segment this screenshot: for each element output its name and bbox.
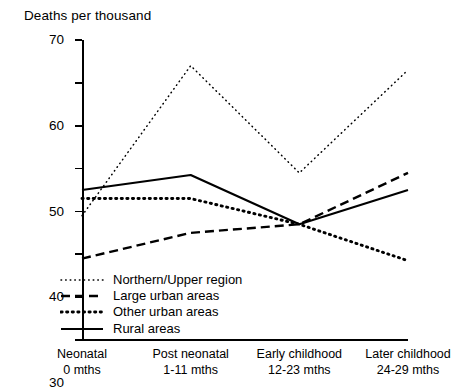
legend-swatch bbox=[60, 290, 104, 302]
series-line bbox=[82, 199, 408, 261]
legend-swatch bbox=[60, 323, 104, 335]
x-axis-tick-label-line: 1-11 mths bbox=[152, 363, 228, 379]
legend-item: Large urban areas bbox=[60, 288, 242, 304]
line-chart: Deaths per thousand 706050403020100 Neon… bbox=[0, 0, 456, 388]
legend-swatch bbox=[60, 274, 104, 286]
legend-item: Other urban areas bbox=[60, 304, 242, 320]
legend-item: Northern/Upper region bbox=[60, 272, 242, 288]
legend-label: Large urban areas bbox=[113, 288, 219, 304]
legend: Northern/Upper regionLarge urban areasOt… bbox=[60, 272, 242, 337]
legend-label: Northern/Upper region bbox=[113, 272, 242, 288]
series-line bbox=[82, 66, 408, 216]
legend-label: Other urban areas bbox=[113, 304, 219, 320]
series-line bbox=[82, 175, 408, 224]
x-axis-tick-label-line: 12-23 mths bbox=[257, 363, 342, 379]
x-axis-tick-label-line: Neonatal bbox=[57, 347, 107, 363]
x-axis-tick-label: Post neonatal1-11 mths bbox=[152, 347, 228, 378]
series-line bbox=[82, 173, 408, 259]
legend-item: Rural areas bbox=[60, 321, 242, 337]
x-axis-tick-label-line: Later childhood bbox=[365, 347, 450, 363]
legend-label: Rural areas bbox=[113, 321, 180, 337]
x-axis-tick-label: Neonatal0 mths bbox=[57, 347, 107, 378]
x-axis-tick-label-line: Early childhood bbox=[257, 347, 342, 363]
x-axis-tick-label-line: 0 mths bbox=[57, 363, 107, 379]
x-axis-tick-label-line: 24-29 mths bbox=[365, 363, 450, 379]
x-axis-tick-label: Early childhood12-23 mths bbox=[257, 347, 342, 378]
x-axis-tick-label: Later childhood24-29 mths bbox=[365, 347, 450, 378]
legend-swatch bbox=[60, 306, 104, 318]
x-axis-tick-label-line: Post neonatal bbox=[152, 347, 228, 363]
